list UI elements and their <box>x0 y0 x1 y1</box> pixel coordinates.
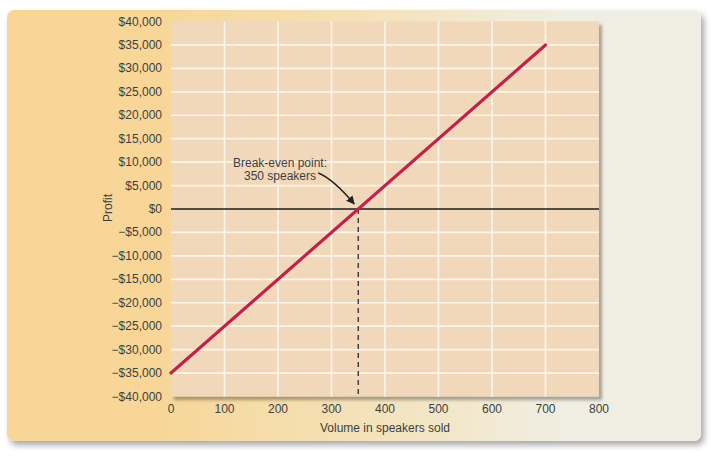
x-tick-label: 700 <box>535 402 555 416</box>
y-tick-label: −$25,000 <box>112 319 163 333</box>
x-tick-label: 800 <box>589 402 609 416</box>
x-tick-label: 600 <box>482 402 502 416</box>
x-tick-label: 300 <box>321 402 341 416</box>
x-tick-label: 0 <box>168 402 175 416</box>
chart-card: $40,000$35,000$30,000$25,000$20,000$15,0… <box>7 10 701 441</box>
y-tick-label: −$5,000 <box>118 225 162 239</box>
y-tick-label: $25,000 <box>119 85 163 99</box>
y-tick-label: $10,000 <box>119 155 163 169</box>
break-even-annotation: Break-even point: 350 speakers <box>210 157 350 183</box>
x-tick-label: 100 <box>214 402 234 416</box>
y-tick-label: $20,000 <box>119 108 163 122</box>
x-axis-title: Volume in speakers sold <box>171 421 599 435</box>
x-tick-label: 500 <box>428 402 448 416</box>
y-tick-label: $5,000 <box>125 179 162 193</box>
y-tick-label: $15,000 <box>119 132 163 146</box>
y-tick-label: −$15,000 <box>112 272 163 286</box>
y-tick-label: $0 <box>149 202 163 216</box>
y-tick-label: −$30,000 <box>112 343 163 357</box>
break-even-annotation-line2: 350 speakers <box>210 170 350 183</box>
y-tick-label: $40,000 <box>119 15 163 29</box>
x-tick-label: 400 <box>375 402 395 416</box>
y-tick-label: −$35,000 <box>112 366 163 380</box>
y-tick-label: −$10,000 <box>112 249 163 263</box>
x-tick-label: 200 <box>268 402 288 416</box>
page-background: $40,000$35,000$30,000$25,000$20,000$15,0… <box>0 0 711 464</box>
y-tick-label: −$40,000 <box>112 390 163 404</box>
y-tick-label: $35,000 <box>119 38 163 52</box>
y-tick-label: $30,000 <box>119 61 163 75</box>
y-tick-label: −$20,000 <box>112 296 163 310</box>
y-axis-title: Profit <box>101 178 115 238</box>
